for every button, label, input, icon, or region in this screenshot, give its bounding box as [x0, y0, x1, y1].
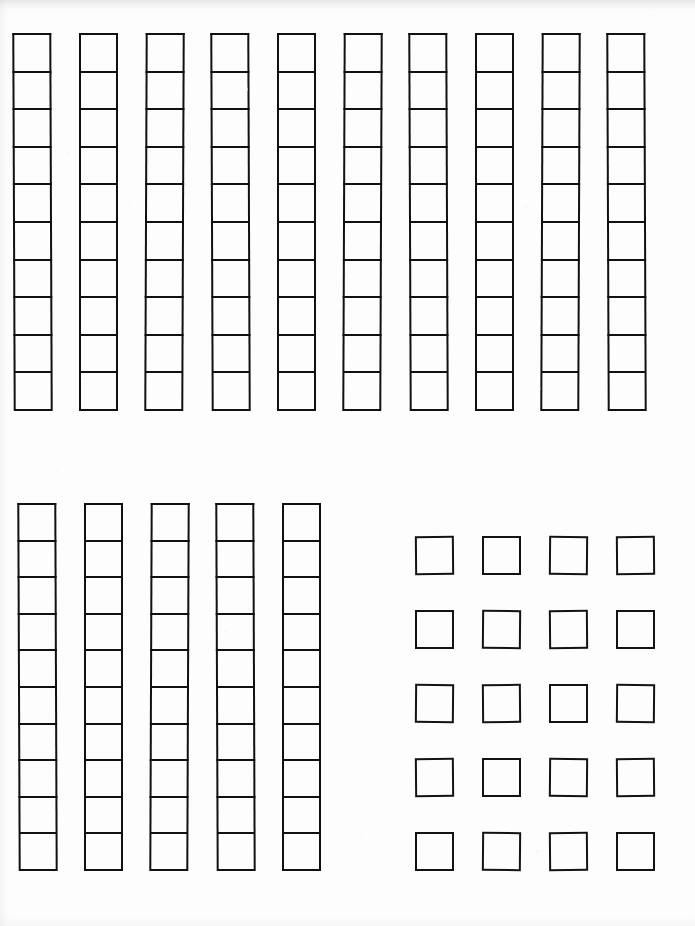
unit-cell — [409, 146, 448, 184]
unit-cell — [215, 540, 254, 577]
unit-cell — [409, 183, 448, 221]
unit-cell — [150, 722, 189, 759]
unit-cell — [409, 334, 448, 372]
scan-speck — [66, 152, 68, 154]
ten-rod — [342, 33, 382, 411]
unit-cell — [212, 371, 251, 411]
unit-cell — [215, 503, 254, 540]
unit-cell — [211, 146, 250, 184]
ten-rod — [282, 503, 321, 871]
ten-rod — [149, 503, 189, 871]
unit-cell — [13, 183, 52, 221]
unit-cell — [79, 146, 118, 184]
scan-speck — [190, 146, 191, 147]
unit-cell — [541, 183, 580, 221]
unit-cell — [150, 649, 189, 686]
ten-rod — [408, 33, 448, 411]
unit-cell — [475, 71, 514, 109]
unit-cell — [216, 649, 255, 686]
one-unit-square — [549, 832, 588, 871]
unit-cell — [13, 258, 52, 296]
unit-cell — [475, 183, 514, 221]
one-unit-square — [616, 758, 655, 797]
unit-cell — [12, 33, 51, 71]
unit-cell — [211, 258, 250, 296]
ten-rod — [277, 33, 316, 411]
ten-rod — [84, 503, 123, 871]
ten-rod — [606, 33, 646, 411]
ten-rod — [215, 503, 255, 871]
unit-cell — [540, 334, 579, 372]
unit-cell — [607, 296, 646, 334]
unit-cell — [541, 221, 580, 259]
unit-cell — [79, 371, 118, 411]
scan-speck — [63, 661, 64, 662]
one-unit-square — [482, 536, 521, 575]
unit-cell — [344, 33, 383, 71]
unit-cell — [211, 183, 250, 221]
unit-cell — [145, 221, 184, 259]
unit-cell — [84, 540, 123, 577]
unit-cell — [475, 33, 514, 71]
unit-cell — [216, 613, 255, 650]
unit-cell — [84, 759, 123, 796]
unit-cell — [475, 334, 514, 372]
unit-cell — [145, 108, 184, 146]
unit-cell — [282, 503, 321, 540]
unit-cell — [216, 576, 255, 613]
unit-cell — [409, 221, 448, 259]
unit-cell — [607, 258, 646, 296]
unit-cell — [282, 723, 321, 760]
unit-cell — [343, 146, 382, 184]
unit-cell — [282, 832, 321, 871]
unit-cell — [342, 334, 381, 372]
unit-cell — [282, 759, 321, 796]
unit-cell — [277, 108, 316, 146]
unit-cell — [13, 334, 52, 372]
ten-rod — [210, 33, 250, 411]
unit-cell — [282, 686, 321, 723]
unit-cell — [282, 796, 321, 833]
unit-cell — [18, 722, 57, 759]
unit-cell — [18, 796, 57, 833]
scan-speck — [254, 37, 255, 38]
unit-cell — [475, 221, 514, 259]
unit-cell — [79, 259, 118, 297]
one-unit-square — [616, 536, 655, 575]
unit-cell — [277, 33, 316, 71]
unit-cell — [18, 576, 57, 613]
scan-speck — [536, 850, 539, 853]
scan-speck — [128, 201, 130, 203]
scan-speck — [609, 904, 610, 905]
unit-cell — [149, 796, 188, 833]
one-unit-square — [616, 610, 655, 649]
ten-rod — [540, 33, 580, 411]
unit-cell — [475, 259, 514, 297]
scan-speck — [391, 781, 393, 783]
unit-cell — [13, 221, 52, 259]
unit-cell — [343, 258, 382, 296]
unit-cell — [84, 649, 123, 686]
unit-cell — [18, 686, 57, 723]
unit-cell — [541, 108, 580, 146]
one-unit-square — [415, 610, 454, 649]
unit-cell — [408, 71, 447, 109]
one-unit-square — [482, 758, 521, 797]
one-unit-square — [482, 610, 521, 649]
scan-speck — [138, 427, 140, 429]
unit-cell — [475, 371, 514, 411]
ten-rod — [12, 33, 52, 411]
unit-cell — [79, 183, 118, 221]
unit-cell — [150, 540, 189, 577]
unit-cell — [216, 759, 255, 796]
unit-cell — [79, 221, 118, 259]
unit-cell — [145, 258, 184, 296]
worksheet-page — [0, 0, 695, 926]
unit-cell — [608, 371, 647, 411]
unit-cell — [210, 71, 249, 109]
unit-cell — [19, 832, 58, 871]
scan-speck — [547, 6, 550, 9]
scan-edge-shadow-left — [0, 0, 9, 926]
unit-cell — [150, 686, 189, 723]
unit-cell — [13, 296, 52, 334]
